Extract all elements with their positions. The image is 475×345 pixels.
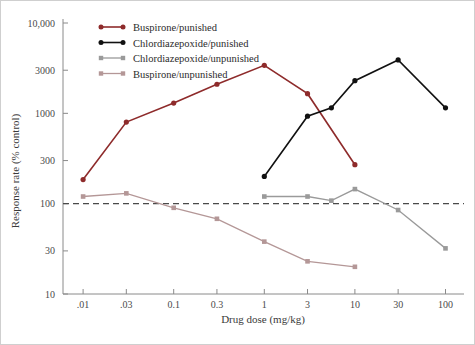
data-series (262, 187, 448, 251)
data-point (80, 177, 85, 182)
data-point (124, 119, 129, 124)
data-point (262, 194, 267, 199)
x-tick-label: 0.1 (167, 299, 180, 310)
data-series (80, 63, 357, 182)
data-point (443, 105, 448, 110)
data-point (262, 239, 267, 244)
axes (63, 19, 464, 294)
legend-entry[interactable]: Buspirone/unpunished (99, 69, 228, 80)
data-point (124, 191, 129, 196)
data-point (353, 265, 358, 270)
data-series (262, 57, 448, 179)
legend-marker (121, 56, 125, 60)
y-tickmarks (63, 23, 68, 294)
x-tick-labels: .01.030.10.3131030100 (77, 299, 453, 310)
x-tick-label: .03 (120, 299, 133, 310)
y-tick-label: 10 (45, 289, 55, 300)
x-tick-label: 1 (262, 299, 267, 310)
data-point (352, 162, 357, 167)
data-point (171, 100, 176, 105)
x-tickmarks (83, 289, 445, 294)
x-axis-title: Drug dose (mg/kg) (221, 313, 305, 326)
data-point (305, 194, 310, 199)
legend-label: Buspirone/unpunished (133, 69, 228, 80)
x-tick-label: 10 (350, 299, 360, 310)
figure-container: 10,000300010003001003010 .01.030.10.3131… (0, 0, 475, 345)
legend-marker (99, 40, 104, 45)
data-point (329, 198, 334, 203)
y-axis-title: Response rate (% control) (9, 113, 22, 228)
y-tick-label: 1000 (35, 108, 55, 119)
legend-entry[interactable]: Chlordiazepoxide/unpunished (99, 53, 260, 64)
y-tick-label: 30 (45, 245, 55, 256)
legend-entry[interactable]: Chlordiazepoxide/punished (99, 38, 250, 49)
legend-marker (99, 56, 103, 60)
data-point (305, 259, 310, 264)
data-point (215, 216, 220, 221)
y-tick-label: 3000 (35, 65, 55, 76)
y-tick-label: 300 (40, 155, 55, 166)
legend-label: Chlordiazepoxide/punished (133, 38, 249, 49)
legend-marker (121, 71, 125, 75)
legend-label: Chlordiazepoxide/unpunished (133, 53, 260, 64)
data-point (396, 208, 401, 213)
y-tick-label: 100 (40, 198, 55, 209)
data-point (214, 82, 219, 87)
data-point (262, 174, 267, 179)
legend-marker (99, 71, 103, 75)
data-point (305, 114, 310, 119)
data-point (262, 63, 267, 68)
legend-marker (99, 25, 104, 30)
x-tick-label: 0.3 (211, 299, 224, 310)
legend: Buspirone/punishedChlordiazepoxide/punis… (99, 22, 260, 80)
data-point (353, 187, 358, 192)
data-point (443, 246, 448, 251)
x-tick-label: .01 (77, 299, 90, 310)
data-series (81, 191, 357, 269)
x-tick-label: 30 (393, 299, 403, 310)
data-point (396, 57, 401, 62)
legend-entry[interactable]: Buspirone/punished (99, 22, 218, 33)
x-tick-label: 3 (305, 299, 310, 310)
data-point (352, 78, 357, 83)
data-point (329, 105, 334, 110)
data-point (305, 91, 310, 96)
data-point (81, 194, 86, 199)
x-tick-label: 100 (438, 299, 453, 310)
series-layer (80, 57, 448, 269)
y-tick-label: 10,000 (28, 18, 56, 29)
legend-label: Buspirone/punished (133, 22, 218, 33)
y-tick-labels: 10,000300010003001003010 (28, 18, 56, 300)
legend-marker (121, 25, 126, 30)
response-rate-chart: 10,000300010003001003010 .01.030.10.3131… (1, 1, 475, 345)
legend-marker (121, 40, 126, 45)
data-point (171, 206, 176, 211)
